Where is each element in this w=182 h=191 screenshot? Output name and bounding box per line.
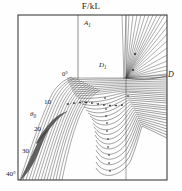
- label-d1: D1: [99, 62, 107, 70]
- plot-canvas: [0, 0, 182, 191]
- tick-label-30: 30: [22, 148, 29, 155]
- figure-container: F/kL A1 D1 D θ0 0° 10 20 30 40°: [0, 0, 182, 191]
- tick-label-40: 40°: [6, 171, 16, 178]
- tick-label-10: 10: [44, 99, 51, 106]
- label-d1-sub: 1: [104, 65, 107, 70]
- figure-title: F/kL: [0, 2, 182, 11]
- label-theta0: θ0: [30, 111, 36, 119]
- label-theta-sub: 0: [33, 114, 36, 119]
- label-a1-sub: 1: [88, 23, 91, 28]
- tick-label-0: 0°: [62, 71, 68, 78]
- label-a1: A1: [84, 20, 91, 28]
- label-d: D: [168, 71, 174, 79]
- tick-label-20: 20: [34, 126, 41, 133]
